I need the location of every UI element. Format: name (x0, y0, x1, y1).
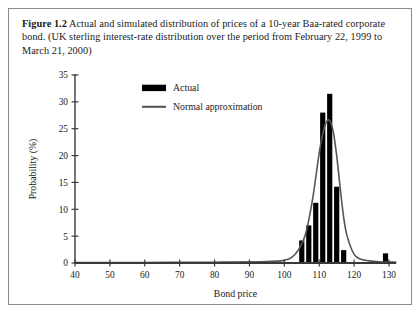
x-tick-label: 50 (105, 270, 115, 280)
y-tick-label: 25 (59, 124, 69, 134)
x-tick-label: 100 (277, 270, 291, 280)
legend-label: Actual (173, 82, 199, 93)
y-tick-label: 20 (59, 151, 69, 161)
bar (327, 94, 332, 263)
legend-label: Normal approximation (173, 101, 263, 112)
bar-series-actual (299, 94, 388, 263)
y-axis-title: Probability (%) (27, 139, 39, 200)
x-tick-label: 70 (175, 270, 185, 280)
chart-plot-area: 05101520253035405060708090100110120130 B… (22, 67, 400, 299)
x-tick-label: 120 (347, 270, 361, 280)
x-tick-label: 110 (312, 270, 326, 280)
figure-caption-text: Actual and simulated distribution of pri… (22, 18, 385, 56)
y-tick-label: 5 (63, 232, 68, 242)
y-tick-label: 15 (59, 178, 69, 188)
figure-number: Figure 1.2 (22, 18, 67, 29)
chart-legend: ActualNormal approximation (142, 82, 263, 112)
y-tick-label: 10 (59, 205, 69, 215)
x-axis-title: Bond price (214, 288, 258, 299)
bar (341, 250, 346, 263)
x-tick-label: 130 (382, 270, 396, 280)
figure-frame: Figure 1.2 Actual and simulated distribu… (8, 8, 412, 305)
x-tick-label: 80 (210, 270, 220, 280)
x-tick-label: 40 (70, 270, 80, 280)
x-tick-label: 90 (245, 270, 255, 280)
x-tick-label: 60 (140, 270, 150, 280)
y-tick-label: 35 (59, 70, 69, 80)
normal-approximation-curve (75, 120, 396, 263)
bar (313, 203, 318, 263)
y-tick-label: 30 (59, 97, 69, 107)
distribution-chart: 05101520253035405060708090100110120130 B… (22, 67, 400, 299)
bar (334, 187, 339, 263)
figure-caption: Figure 1.2 Actual and simulated distribu… (22, 17, 394, 57)
legend-swatch-actual (142, 85, 166, 91)
y-tick-label: 0 (63, 258, 68, 268)
